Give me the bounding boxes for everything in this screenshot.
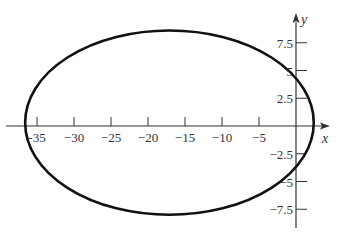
x-tick-label: −10 [212, 130, 232, 145]
y-tick-label: −2.5 [269, 147, 293, 162]
y-tick-label: 7.5 [277, 36, 293, 51]
ellipse-curve [25, 31, 314, 215]
x-tick-label: −20 [138, 130, 158, 145]
ellipse-series [25, 31, 314, 215]
x-tick-label: −15 [175, 130, 195, 145]
x-tick-label: -35 [28, 130, 45, 145]
x-axis-label: x [321, 131, 329, 146]
x-tick-label: −25 [101, 130, 121, 145]
x-tick-label: −30 [64, 130, 84, 145]
y-tick-label: −7.5 [269, 202, 293, 217]
y-axis-label: y [299, 12, 308, 27]
x-tick-label: −5 [252, 130, 266, 145]
y-axis-arrow-icon [293, 13, 300, 23]
y-tick-label: 2.5 [277, 91, 293, 106]
ellipse-plot: xy -35−30−25−20−15−10−57.552.5−2.5−5−7.5 [0, 0, 353, 236]
